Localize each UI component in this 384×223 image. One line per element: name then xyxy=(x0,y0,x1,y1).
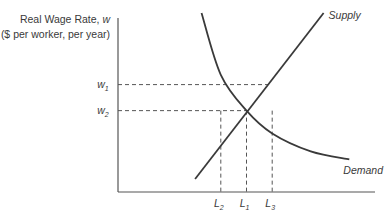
demand-curve xyxy=(202,13,350,159)
y-axis-label: Real Wage Rate, w ($ per worker, per yea… xyxy=(1,13,112,40)
labor-market-chart: Real Wage Rate, w ($ per worker, per yea… xyxy=(0,0,384,223)
y-axis-label-line2: ($ per worker, per year) xyxy=(1,28,110,40)
y-tick-label-w1: w1 xyxy=(97,78,109,92)
x-tick-label-L2: L2 xyxy=(214,197,224,211)
x-tick-label-L3: L3 xyxy=(265,197,275,211)
y-tick-label-w2: w2 xyxy=(97,104,109,118)
supply-label: Supply xyxy=(329,9,362,21)
supply-curve xyxy=(195,13,324,179)
x-tick-label-L1: L1 xyxy=(240,197,250,211)
demand-label: Demand xyxy=(343,164,384,176)
y-axis-label-line1: Real Wage Rate, w xyxy=(20,13,112,25)
